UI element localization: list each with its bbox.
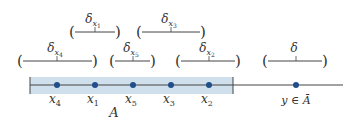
radius-label: δx1 <box>85 12 101 29</box>
open-paren-left: ( <box>69 23 75 41</box>
open-paren-left: ( <box>175 52 181 70</box>
radius-label: δ <box>290 41 297 55</box>
set-a-label: A <box>108 105 118 120</box>
open-paren-left: ( <box>136 23 142 41</box>
open-paren-right: ) <box>322 52 328 70</box>
neighborhood-y: ()δ <box>262 41 328 70</box>
point-label: x2 <box>201 92 213 108</box>
outside-point: y ∈ Ā <box>280 82 310 107</box>
open-paren-right: ) <box>150 52 156 70</box>
neighborhood-x5: ()δx5 <box>109 41 156 70</box>
point-label: x3 <box>163 92 175 108</box>
point-label: x1 <box>87 92 99 108</box>
open-paren-right: ) <box>115 23 121 41</box>
open-paren-left: ( <box>17 52 23 70</box>
point-dot <box>130 82 136 88</box>
open-paren-left: ( <box>109 52 115 70</box>
radius-label: δx3 <box>161 12 177 29</box>
open-paren-right: ) <box>92 52 98 70</box>
open-paren-left: ( <box>262 52 268 70</box>
radius-label: δx2 <box>199 41 215 58</box>
radius-label: δx5 <box>123 41 139 58</box>
open-cover-diagram: x4x1x5x3x2 y ∈ Ā ()δx1()δx3()δx4()δx5()δ… <box>0 0 361 126</box>
neighborhoods: ()δx1()δx3()δx4()δx5()δx2()δ <box>17 12 328 70</box>
radius-label: δx4 <box>47 41 63 58</box>
point-dot <box>92 82 98 88</box>
neighborhood-x4: ()δx4 <box>17 41 98 70</box>
point-dot <box>168 82 174 88</box>
neighborhood-x3: ()δx3 <box>136 12 206 41</box>
point-label: x4 <box>49 92 61 108</box>
open-paren-right: ) <box>200 23 206 41</box>
outside-point-label: y ∈ Ā <box>280 94 310 107</box>
point-dot <box>206 82 212 88</box>
neighborhood-x1: ()δx1 <box>69 12 121 41</box>
outside-point-dot <box>293 82 299 88</box>
point-dot <box>54 82 60 88</box>
neighborhood-x2: ()δx2 <box>175 41 241 70</box>
open-paren-right: ) <box>235 52 241 70</box>
point-label: x5 <box>125 92 137 108</box>
